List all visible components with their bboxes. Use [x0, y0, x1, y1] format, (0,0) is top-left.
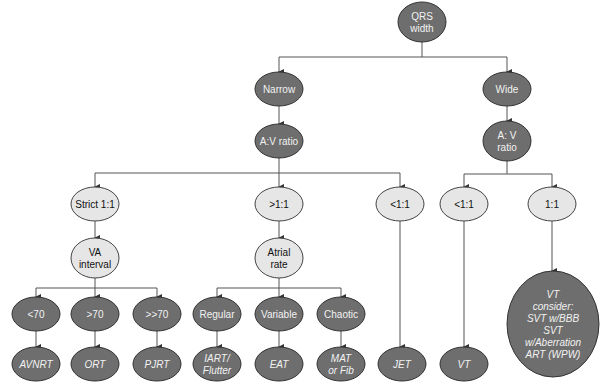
node-lt70: <70 [12, 297, 60, 331]
node-ort: ORT [71, 347, 119, 381]
node-lt11-vt: <1:1 [440, 187, 488, 221]
node-label: Chaotic [324, 309, 358, 320]
node-label: Wide [496, 84, 519, 95]
node-strict: Strict 1:1 [71, 187, 119, 221]
node-wide: Wide [483, 72, 531, 106]
node-lt11-jet: <1:1 [376, 187, 424, 221]
node-ggt70: >>70 [133, 297, 181, 331]
node-label: Atrial [268, 247, 291, 258]
node-label: VA [89, 247, 102, 258]
node-label: <1:1 [454, 199, 474, 210]
node-eq11: 1:1 [528, 187, 576, 221]
node-vt-consider: VTconsider:SVT w/BBBSVTw/AberrationART (… [507, 271, 599, 377]
node-label: A: V [498, 130, 517, 141]
node-label: >>70 [146, 309, 169, 320]
node-label: 1:1 [545, 199, 559, 210]
node-label: AVNRT [18, 359, 53, 370]
node-qrs: QRSwidth [398, 2, 446, 42]
node-vt: VT [440, 347, 488, 381]
node-av-left: A:V ratio [255, 124, 303, 158]
node-mat: MATor Fib [317, 347, 365, 381]
node-label: Flutter [203, 365, 232, 376]
node-label: IART/ [204, 353, 231, 364]
node-iart: IART/Flutter [193, 347, 241, 381]
node-label: SVT [543, 325, 563, 336]
node-chaotic: Chaotic [317, 297, 365, 331]
node-va: VAinterval [71, 238, 119, 278]
node-variable: Variable [255, 297, 303, 331]
node-avnrt: AVNRT [12, 347, 60, 381]
node-label: interval [79, 259, 111, 270]
node-label: Regular [199, 309, 235, 320]
node-label: >70 [87, 309, 104, 320]
node-atrial: Atrialrate [255, 238, 303, 278]
node-label: MAT [331, 353, 352, 364]
node-label: w/Aberration [525, 337, 582, 348]
node-label: ratio [497, 142, 517, 153]
node-label: Variable [261, 309, 297, 320]
node-label: VT [458, 359, 472, 370]
node-label: VT [547, 289, 561, 300]
node-label: <70 [28, 309, 45, 320]
node-label: >1:1 [269, 199, 289, 210]
node-gt70: >70 [71, 297, 119, 331]
node-av-right: A: Vratio [483, 121, 531, 161]
node-label: Strict 1:1 [75, 199, 115, 210]
node-pjrt: PJRT [133, 347, 181, 381]
node-label: SVT w/BBB [527, 313, 580, 324]
node-label: JET [392, 359, 412, 370]
node-label: ART (WPW) [525, 349, 581, 360]
node-jet: JET [378, 347, 426, 381]
node-label: width [409, 23, 433, 34]
node-label: EAT [270, 359, 290, 370]
node-gt11: >1:1 [255, 187, 303, 221]
node-label: A:V ratio [260, 136, 299, 147]
node-regular: Regular [193, 297, 241, 331]
tachycardia-decision-tree: QRSwidthNarrowWideA:V ratioA: VratioStri… [0, 0, 605, 386]
node-label: or Fib [328, 365, 354, 376]
node-label: <1:1 [390, 199, 410, 210]
node-label: PJRT [145, 359, 171, 370]
node-label: consider: [533, 301, 574, 312]
node-label: ORT [85, 359, 107, 370]
node-narrow: Narrow [255, 72, 303, 106]
node-label: QRS [411, 11, 433, 22]
node-label: Narrow [263, 84, 296, 95]
node-eat: EAT [255, 347, 303, 381]
node-label: rate [270, 259, 288, 270]
nodes: QRSwidthNarrowWideA:V ratioA: VratioStri… [12, 2, 599, 381]
